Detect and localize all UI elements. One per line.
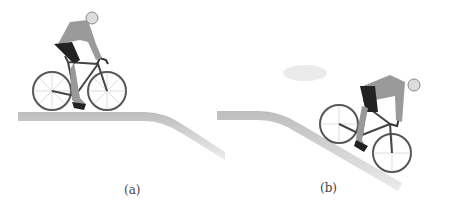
- road-b: [217, 111, 402, 191]
- caption-b: (b): [320, 181, 337, 195]
- figure: (a) (b): [0, 0, 451, 217]
- illustration: [0, 0, 451, 217]
- caption-a: (a): [124, 183, 141, 197]
- road-a: [18, 112, 225, 160]
- cyclist-a: [33, 12, 126, 110]
